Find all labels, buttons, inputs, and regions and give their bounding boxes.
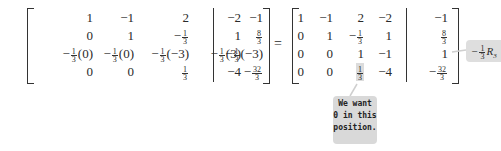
op-sign: − (471, 45, 478, 57)
op-row-index: 3 (493, 52, 497, 60)
callout-line: 0 in this (333, 110, 377, 122)
annotation-callout: We want 0 in this position. (333, 96, 377, 144)
op-fraction: 13 (479, 45, 485, 60)
callout-line: We want (333, 98, 377, 110)
callout-line: position. (333, 122, 377, 134)
row-operation-label: −13R3 (466, 40, 501, 62)
